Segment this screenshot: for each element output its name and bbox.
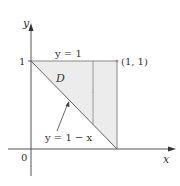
corner-point — [116, 60, 119, 63]
y-axis-label: y — [22, 17, 30, 30]
top-boundary-label: y = 1 — [54, 48, 82, 59]
y-tick-label: 1 — [19, 56, 25, 67]
origin-label: 0 — [21, 152, 27, 163]
leader-arrow-icon — [66, 101, 70, 107]
x-axis-arrow-icon — [168, 147, 176, 152]
y-axis-arrow-icon — [29, 23, 34, 31]
label-leader-line — [57, 103, 68, 131]
corner-point-label: (1, 1) — [121, 56, 148, 67]
region-diagram: y x 0 1 D y = 1 y = 1 − x (1, 1) — [0, 0, 180, 186]
x-axis-label: x — [163, 153, 170, 166]
diagonal-boundary-label: y = 1 − x — [44, 132, 92, 143]
region-label: D — [55, 72, 65, 85]
